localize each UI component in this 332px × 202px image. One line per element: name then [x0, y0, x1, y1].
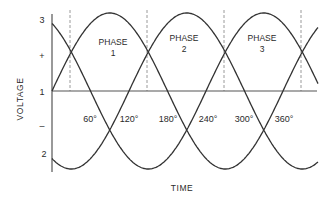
angle-label: 120° — [120, 114, 139, 124]
angle-label: 60° — [83, 114, 97, 124]
three-phase-diagram: 3 + 1 – 2 VOLTAGE PHASE 1 PHASE 2 PHASE … — [0, 0, 332, 202]
y-axis-title: VOLTAGE — [15, 77, 25, 120]
angle-label: 360° — [275, 114, 294, 124]
y-tick-label: – — [39, 121, 44, 131]
x-axis-title: TIME — [171, 183, 194, 193]
phase-1-label: PHASE — [99, 37, 128, 47]
angle-label: 300° — [235, 114, 254, 124]
angle-label: 180° — [159, 114, 178, 124]
angle-label: 240° — [199, 114, 218, 124]
y-tick-label: 1 — [39, 87, 44, 97]
y-tick-label: 2 — [41, 149, 46, 159]
phase-2-number: 2 — [182, 44, 187, 54]
phase-3-number: 3 — [260, 44, 265, 54]
phase-1-number: 1 — [111, 48, 116, 58]
phase-3-label: PHASE — [248, 33, 277, 43]
y-tick-label: 3 — [39, 15, 44, 25]
phase-2-label: PHASE — [170, 33, 199, 43]
y-tick-label: + — [39, 51, 44, 61]
